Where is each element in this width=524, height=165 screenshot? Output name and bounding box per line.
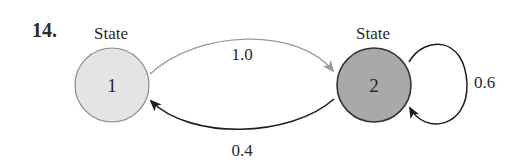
state-1-label: 1	[107, 75, 117, 96]
self-loop-2-arrow	[409, 44, 467, 124]
state-1-title: State	[94, 24, 128, 43]
problem-number: 14.	[32, 19, 57, 41]
state-2-title: State	[356, 24, 390, 43]
state-2-label: 2	[369, 75, 379, 96]
transition-1-to-2-label: 1.0	[231, 45, 252, 64]
state-diagram: 14. State State 1.0 0.4 0.6 1 2	[0, 0, 524, 165]
state-2-node: 2	[337, 48, 411, 122]
self-loop-2-label: 0.6	[474, 73, 495, 92]
transition-2-to-1-arrow	[151, 99, 334, 129]
transition-2-to-1-label: 0.4	[231, 141, 253, 160]
state-1-node: 1	[75, 48, 149, 122]
